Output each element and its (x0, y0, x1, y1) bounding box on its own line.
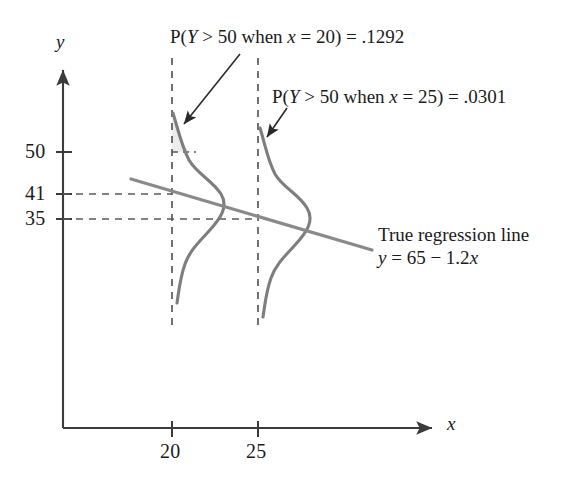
y-tick-label-50: 50 (25, 140, 45, 162)
annotation-arrow-x25 (267, 108, 287, 137)
prob-x20-prefix: P( (170, 26, 187, 47)
y-tick-label-41: 41 (25, 182, 45, 204)
normal-curve-x20 (173, 113, 224, 303)
prob-x25-suffix: = 25) = .0301 (398, 86, 507, 107)
prob-x20-middle: > 50 when (197, 26, 287, 47)
prob-x25-var-x: x (389, 86, 397, 107)
prob-x20-var-y: Y (187, 26, 198, 47)
prob-x25-prefix: P( (272, 86, 289, 107)
probability-annotation-x25: P(Y > 50 when x = 25) = .0301 (272, 86, 506, 107)
y-tick-label-35: 35 (25, 207, 45, 229)
prob-x25-var-y: Y (289, 86, 300, 107)
normal-curve-x25 (260, 128, 310, 317)
regression-equation: y = 65 − 1.2x (378, 247, 529, 268)
regression-line-caption: True regression line y = 65 − 1.2x (378, 224, 529, 269)
y-axis-label: y (56, 31, 64, 52)
regression-caption-title: True regression line (378, 224, 529, 245)
prob-x20-suffix: = 20) = .1292 (296, 26, 405, 47)
regression-eq-middle: = 65 − 1.2 (386, 247, 469, 268)
regression-distribution-figure: y x 50 41 35 20 25 P(Y > 50 when x = 20)… (0, 0, 571, 482)
regression-eq-var-x: x (470, 247, 478, 268)
x-axis-label: x (447, 413, 455, 434)
x-tick-label-20: 20 (160, 440, 180, 462)
annotation-arrow-x20 (184, 54, 240, 124)
prob-x25-middle: > 50 when (299, 86, 389, 107)
prob-x20-var-x: x (287, 26, 295, 47)
probability-annotation-x20: P(Y > 50 when x = 20) = .1292 (170, 26, 404, 47)
x-tick-label-25: 25 (246, 440, 266, 462)
true-regression-line (131, 179, 372, 250)
